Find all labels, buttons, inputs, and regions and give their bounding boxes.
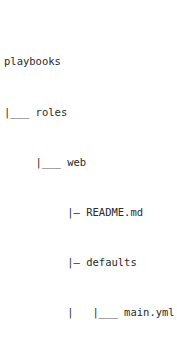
tree-node-web: |___ web <box>4 154 177 171</box>
tree-connector: |___ <box>4 106 36 118</box>
tree-node-roles: |___ roles <box>4 104 177 121</box>
directory-name: playbooks <box>4 55 61 67</box>
tree-node-playbooks: playbooks <box>4 53 177 70</box>
tree-node-defaults: |— defaults <box>4 254 177 271</box>
file-name: README.md <box>86 206 143 218</box>
tree-connector: | |___ <box>4 306 124 318</box>
tree-node-readme: |— README.md <box>4 204 177 221</box>
directory-name: roles <box>36 106 68 118</box>
tree-connector: |— <box>4 206 86 218</box>
tree-node-defaults-main: | |___ main.yml <box>4 304 177 321</box>
file-name: main.yml <box>124 306 175 318</box>
directory-tree: playbooks |___ roles |___ web |— README.… <box>4 20 177 349</box>
directory-name: web <box>67 156 86 168</box>
tree-connector: |— <box>4 256 86 268</box>
tree-connector: |___ <box>4 156 67 168</box>
directory-name: defaults <box>86 256 137 268</box>
